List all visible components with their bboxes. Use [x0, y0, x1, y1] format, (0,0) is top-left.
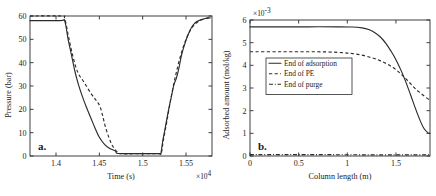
tick-label-y: 50: [19, 35, 27, 44]
panel-a-label: a.: [38, 140, 47, 152]
tick-label-x: 1.45: [92, 159, 106, 168]
tick-label-y: 5: [243, 39, 247, 48]
panel-a-y-ticklabels: 0102030405060: [19, 12, 27, 161]
panel-b-ylabel: Adsorbed amount (mol/kg): [222, 50, 231, 139]
tick-label-x: 1.5: [391, 159, 401, 168]
panel-b-y-ticklabels: 0123456: [243, 16, 247, 161]
tick-label-y: 0: [243, 152, 247, 161]
tick-label-y: 6: [243, 16, 247, 25]
tick-label-y: 20: [19, 105, 27, 114]
tick-label-y: 1: [243, 129, 247, 138]
panel-b-legend: End of adsorptionEnd of PEEnd of purge: [266, 58, 352, 95]
panel-b-xlabel: Column length (m): [309, 172, 372, 181]
tick-label-x: 1.4: [51, 159, 61, 168]
series-solid: [30, 18, 210, 154]
panel-b: Adsorbed amount (mol/kg) 0123456 00.511.…: [218, 0, 436, 196]
panel-a-axes-frame: [30, 16, 212, 156]
panel-b-x-ticklabels: 00.511.5: [248, 159, 401, 168]
tick-label-y: 30: [19, 82, 27, 91]
tick-label-x: 1.55: [179, 159, 193, 168]
panel-a-x-multiplier: ×104: [196, 169, 212, 181]
tick-label-x: 1: [345, 159, 349, 168]
figure-container: Pressure (bar) 0102030405060 1.41.451.51…: [0, 0, 436, 196]
panel-a-curves: [30, 16, 210, 155]
panel-a-tickmarks: [30, 16, 212, 156]
tick-label-x: 1.5: [138, 159, 148, 168]
tick-label-x: 0.5: [294, 159, 304, 168]
tick-label-y: 60: [19, 12, 27, 21]
legend-label: End of adsorption: [284, 59, 337, 68]
panel-a: Pressure (bar) 0102030405060 1.41.451.51…: [0, 0, 218, 196]
panel-a-svg: Pressure (bar) 0102030405060 1.41.451.51…: [0, 0, 218, 196]
panel-a-xlabel: Time (s): [107, 172, 135, 181]
tick-label-y: 3: [243, 84, 247, 93]
tick-label-y: 2: [243, 107, 247, 116]
panel-a-x-ticklabels: 1.41.451.51.55: [51, 159, 193, 168]
panel-b-svg: Adsorbed amount (mol/kg) 0123456 00.511.…: [218, 0, 436, 196]
panel-b-label: b.: [258, 140, 267, 152]
tick-label-y: 0: [23, 152, 27, 161]
tick-label-y: 10: [19, 129, 27, 138]
legend-label: End of purge: [284, 80, 323, 89]
tick-label-y: 4: [243, 61, 247, 70]
tick-label-y: 40: [19, 59, 27, 68]
panel-b-y-multiplier: ×10-3: [253, 6, 271, 18]
panel-a-ylabel: Pressure (bar): [4, 72, 13, 118]
legend-label: End of PE: [284, 69, 315, 78]
tick-label-x: 0: [248, 159, 252, 168]
series-dashed: [30, 16, 210, 155]
